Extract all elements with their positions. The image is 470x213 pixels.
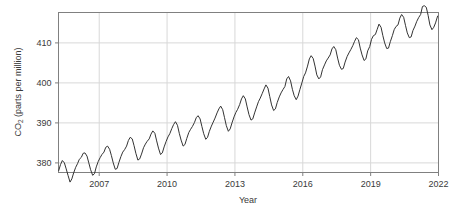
- x-tick-label: 2019: [361, 179, 381, 189]
- x-tick-label: 2007: [89, 179, 109, 189]
- x-tick-label: 2013: [225, 179, 245, 189]
- y-tick-label: 390: [36, 118, 51, 128]
- x-tick-label: 2010: [157, 179, 177, 189]
- y-tick-label: 410: [36, 38, 51, 48]
- y-tick-label: 400: [36, 78, 51, 88]
- x-tick-label: 2022: [428, 179, 448, 189]
- x-tick-label: 2016: [293, 179, 313, 189]
- y-axis-title: CO2 (parts per million): [13, 47, 24, 136]
- co2-line-chart: 200720102013201620192022 380390400410 Ye…: [0, 0, 470, 213]
- x-axis-title: Year: [239, 195, 257, 205]
- chart-canvas: 200720102013201620192022 380390400410 Ye…: [0, 0, 470, 213]
- y-tick-label: 380: [36, 158, 51, 168]
